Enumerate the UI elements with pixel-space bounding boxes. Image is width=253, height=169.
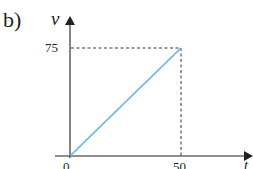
velocity-line [70, 48, 181, 156]
y-axis-arrow-icon [65, 16, 75, 25]
x-axis-arrow-icon [244, 151, 253, 161]
velocity-time-plot [0, 0, 253, 169]
